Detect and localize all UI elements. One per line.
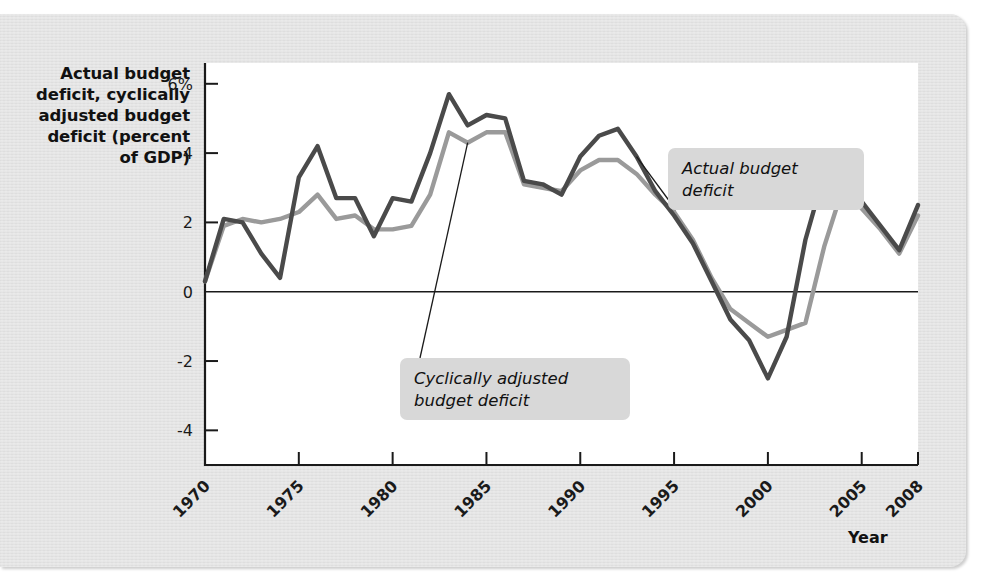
annotation-actual-budget-deficit-box xyxy=(668,148,864,210)
x-tick-label: 1990 xyxy=(544,476,589,521)
annotation-cyclically-adjusted-budget-deficit-leader-line xyxy=(420,143,468,358)
y-tick-label: 6% xyxy=(168,75,193,94)
figure-page: Actual budget deficit, cyclically adjust… xyxy=(0,0,998,581)
y-tick-label: 2 xyxy=(183,213,193,232)
x-tick-label: 1975 xyxy=(263,476,308,521)
x-tick-labels: 197019751980198519901995200020052008 xyxy=(169,476,927,521)
annotation-cyclically-adjusted-budget-deficit-line-1: Cyclically adjusted xyxy=(414,369,569,388)
x-tick-label: 1980 xyxy=(357,476,402,521)
y-tick-label: -2 xyxy=(177,352,193,371)
y-tick-label: 0 xyxy=(183,283,193,302)
y-tick-labels: 6%420-2-4 xyxy=(168,75,193,441)
x-tick-label: 1985 xyxy=(450,476,495,521)
annotation-cyclically-adjusted-budget-deficit-box xyxy=(400,358,630,420)
annotation-actual-budget-deficit-line-2: deficit xyxy=(682,181,734,200)
x-tick-label: 2008 xyxy=(882,476,927,521)
annotation-cyclically-adjusted-budget-deficit-line-2: budget deficit xyxy=(414,391,530,410)
chart-svg: 6%420-2-4 197019751980198519901995200020… xyxy=(0,0,998,581)
series-line-actual-budget-deficit xyxy=(205,94,918,378)
y-tick-label: 4 xyxy=(183,144,193,163)
annotation-actual-budget-deficit-line-1: Actual budget xyxy=(681,159,798,178)
series-lines xyxy=(205,94,918,378)
x-tick-label: 1995 xyxy=(638,476,683,521)
x-tick-label: 1970 xyxy=(169,476,214,521)
y-tick-label: -4 xyxy=(177,421,193,440)
annotations-group: Actual budgetdeficitCyclically adjustedb… xyxy=(400,143,864,420)
x-tick-label: 2005 xyxy=(826,476,871,521)
x-tick-label: 2000 xyxy=(732,476,777,521)
